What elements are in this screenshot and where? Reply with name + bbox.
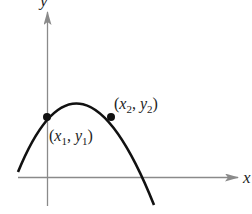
parabola-diagram: y x (x1, y1) (x2, y2)	[0, 0, 252, 214]
x-axis-label: x	[242, 168, 251, 187]
parabola-curve	[18, 103, 154, 205]
point-1-marker	[43, 113, 51, 121]
point-2-marker	[107, 113, 115, 121]
point-1-label: (x1, y1)	[49, 127, 93, 147]
y-axis-label: y	[38, 0, 48, 10]
point-2-label: (x2, y2)	[114, 95, 158, 115]
